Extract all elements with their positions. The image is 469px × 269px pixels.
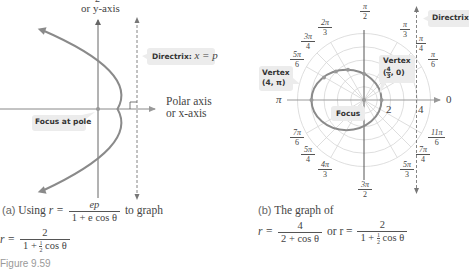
directrix-label-left: Directrix: — [152, 52, 192, 61]
angle-label-7pi-over-4: 7π4 — [414, 145, 432, 164]
caption-a-marker: (a) — [2, 204, 15, 216]
caption-a-text: Using — [18, 204, 45, 216]
angle-label-4pi-over-3: 4π3 — [316, 160, 334, 179]
caption-b-fraction2: 2 1 + 12 cos θ — [357, 219, 407, 245]
radius-label-2: 2 — [386, 103, 392, 115]
angle-label-pi-over-3: π3 — [398, 20, 412, 39]
angle-label-3pi-over-4: 3π4 — [299, 32, 317, 51]
vertex-left-label: Vertex (4, π) — [262, 68, 290, 88]
radius-label-4: 4 — [418, 103, 424, 115]
focus-at-pole-label: Focus at pole — [35, 117, 91, 126]
caption-b-text: The graph of — [274, 204, 333, 216]
angle-label-3pi-over-2: 3π2 — [356, 180, 374, 199]
angle-label-zero: 0 — [446, 93, 452, 105]
caption-a-line2-fraction: 2 1 + 12 cos θ — [20, 227, 70, 253]
focus-label-right: Focus — [336, 109, 360, 118]
caption-a-line2: r = 2 1 + 12 cos θ — [0, 227, 72, 253]
polar-axis-label-line1: Polar axis — [166, 95, 212, 107]
angle-label-2pi-over-3: 2π3 — [316, 18, 334, 37]
angle-label-pi: π — [276, 93, 282, 105]
parabola-curve — [42, 30, 121, 191]
caption-b-marker: (b) — [258, 204, 271, 216]
caption-a-fraction: ep 1 + e cos θ — [69, 199, 120, 224]
directrix-callout-left: Directrix: x = p — [152, 49, 218, 61]
angle-label-pi-over-2: π2 — [358, 2, 372, 21]
polar-axis-label: Polar axis or x-axis — [166, 95, 212, 119]
caption-a: (a) Using r = ep 1 + e cos θ to graph — [2, 199, 163, 224]
y-axis-label: or y-axis — [81, 2, 120, 14]
angle-label-5pi-over-4: 5π4 — [299, 145, 317, 164]
focus-point-left — [96, 107, 100, 111]
directrix-label-right: Directrix — [432, 13, 469, 22]
directrix-equation: x = p — [194, 49, 217, 61]
y-axis-label-text: or y-axis — [81, 2, 120, 14]
figure-label: Figure 9.59 — [0, 258, 51, 269]
vertex-right-label: Vertex (43, 0) — [383, 56, 411, 79]
caption-b-line2: r = 4 2 + cos θ or r = 2 1 + 12 cos θ — [258, 219, 409, 245]
polar-axis-label-line2: or x-axis — [166, 107, 212, 119]
angle-label-11pi-over-6: 11π6 — [426, 128, 447, 147]
caption-b: (b) The graph of — [258, 204, 334, 216]
angle-label-pi-over-6: π6 — [426, 50, 440, 69]
caption-a-req: r = — [49, 204, 64, 216]
right-angle-mark — [130, 102, 137, 109]
caption-b-fraction1: 4 2 + cos θ — [278, 220, 322, 245]
caption-a-text-after: to graph — [125, 204, 163, 216]
angle-label-5pi-over-6: 5π6 — [288, 50, 306, 69]
